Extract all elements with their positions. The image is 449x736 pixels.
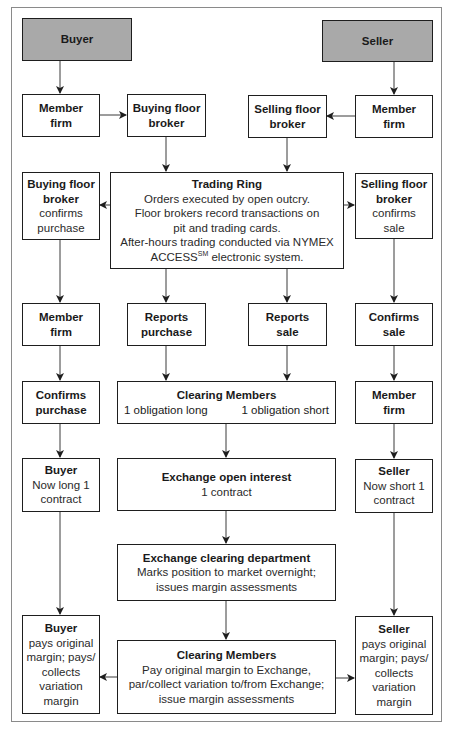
- member-firm-sell-2-box: Member firm: [355, 381, 433, 424]
- trading-ring-box: Trading Ring Orders executed by open out…: [110, 172, 344, 269]
- node-line: pit and trading cards.: [173, 221, 280, 236]
- node-body: 1 contract: [201, 485, 252, 500]
- member-firm-buy-2-box: Member firm: [22, 303, 100, 346]
- obligation-short: 1 obligation short: [241, 403, 329, 418]
- node-title: Confirms sale: [364, 310, 424, 339]
- confirms-purchase-box: Confirms purchase: [22, 381, 100, 424]
- clearing-members-obligations-box: Clearing Members 1 obligation long 1 obl…: [117, 381, 336, 424]
- node-title: Buyer: [45, 621, 78, 636]
- node-title: Reports sale: [266, 310, 309, 339]
- node-title: Buyer: [45, 463, 78, 478]
- node-title: Reports purchase: [134, 310, 199, 339]
- reports-purchase-box: Reports purchase: [127, 303, 206, 346]
- node-body: pays original margin; pays/ collects var…: [358, 637, 430, 710]
- node-title: Trading Ring: [192, 177, 262, 192]
- node-title: Clearing Members: [177, 388, 277, 403]
- buying-floor-broker-box: Buying floor broker: [127, 94, 206, 137]
- node-body: Pay original margin to Exchange, par/col…: [122, 663, 331, 707]
- node-body: Now short 1 contract: [360, 479, 428, 508]
- node-title: Confirms purchase: [27, 388, 95, 417]
- buyer-pays-margin-box: Buyer pays original margin; pays/ collec…: [22, 615, 100, 714]
- clearing-members-margin-box: Clearing Members Pay original margin to …: [117, 640, 336, 714]
- seller-party-box: Seller: [322, 20, 433, 62]
- buyer-long-box: Buyer Now long 1 contract: [22, 458, 100, 512]
- node-title: Member firm: [33, 101, 89, 130]
- reports-sale-box: Reports sale: [248, 303, 327, 346]
- node-title: Clearing Members: [177, 648, 277, 663]
- node-body: confirms sale: [358, 206, 430, 235]
- node-line: ACCESSSM electronic system.: [150, 250, 303, 265]
- buyer-party-box: Buyer: [22, 18, 132, 61]
- obligation-long: 1 obligation long: [124, 403, 208, 418]
- node-line: Orders executed by open outcry.: [144, 192, 310, 207]
- obligations-row: 1 obligation long 1 obligation short: [118, 403, 335, 418]
- node-title: Seller: [378, 464, 409, 479]
- member-firm-sell-box: Member firm: [355, 95, 433, 138]
- node-title: Seller: [362, 34, 393, 49]
- access-text: ACCESS: [150, 251, 197, 263]
- exchange-open-interest-box: Exchange open interest 1 contract: [117, 458, 336, 511]
- confirms-sale-box: Confirms sale: [355, 303, 433, 346]
- seller-pays-margin-box: Seller pays original margin; pays/ colle…: [355, 616, 433, 715]
- node-body: Now long 1 contract: [29, 478, 93, 507]
- exchange-clearing-department-box: Exchange clearing department Marks posit…: [117, 544, 336, 601]
- node-title: Exchange clearing department: [143, 551, 310, 566]
- node-body: Marks position to market overnight; issu…: [128, 565, 325, 594]
- node-title: Selling floor broker: [358, 177, 430, 206]
- selling-floor-broker-box: Selling floor broker: [248, 95, 327, 138]
- node-title: Buying floor broker: [25, 177, 97, 206]
- buying-broker-confirms-box: Buying floor broker confirms purchase: [22, 172, 100, 240]
- member-firm-buy-box: Member firm: [22, 94, 100, 137]
- node-title: Seller: [378, 622, 409, 637]
- node-title: Selling floor broker: [253, 102, 322, 131]
- node-line: After-hours trading conducted via NYMEX: [120, 235, 334, 250]
- node-body: pays original margin; pays/ collects var…: [25, 636, 97, 709]
- node-title: Member firm: [366, 102, 422, 131]
- node-body: confirms purchase: [25, 206, 97, 235]
- service-mark: SM: [198, 250, 209, 257]
- selling-broker-confirms-box: Selling floor broker confirms sale: [355, 173, 433, 239]
- node-line: Floor brokers record transactions on: [135, 206, 320, 221]
- node-title: Buyer: [61, 32, 94, 47]
- seller-short-box: Seller Now short 1 contract: [355, 459, 433, 513]
- node-title: Buying floor broker: [132, 101, 201, 130]
- node-title: Member firm: [366, 388, 422, 417]
- node-title: Member firm: [33, 310, 89, 339]
- node-title: Exchange open interest: [162, 470, 292, 485]
- electronic-system-text: electronic system.: [208, 251, 303, 263]
